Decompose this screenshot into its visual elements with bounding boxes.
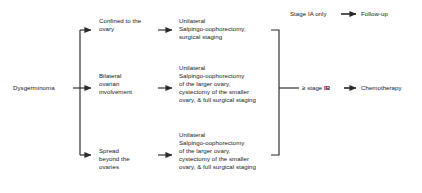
node-chemotherapy: Chemotherapy (361, 84, 419, 92)
stage-ib-roman: IB (324, 84, 330, 91)
node-condition-spread: Spread beyond the ovaries (99, 147, 155, 171)
node-condition-confined: Confined to the ovary (99, 17, 155, 33)
stage-ib-prefix: ≥ stage (302, 84, 324, 91)
node-condition-bilateral: Bilateral ovarian involvement (99, 72, 153, 96)
node-stage-ia-label: Stage IA only (290, 10, 338, 18)
node-stage-ib-label: ≥ stage IB (302, 84, 346, 92)
node-followup: Follow-up (361, 10, 415, 18)
flowchart-canvas: Dysgerminoma Confined to the ovary Bilat… (0, 0, 422, 193)
node-treatment-spread: Unilateral Salpingo-oophorectomy of the … (179, 131, 275, 171)
node-treatment-confined: Unilateral Salpingo-oophorectomy, surgic… (179, 17, 271, 41)
node-dysgerminoma: Dysgerminoma (13, 84, 73, 92)
node-treatment-bilateral: Unilateral Salpingo-oophorectomy of the … (179, 64, 275, 104)
